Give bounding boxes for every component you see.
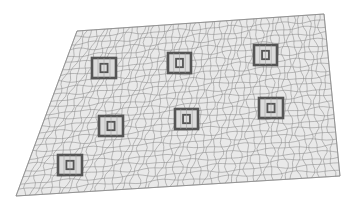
square-hole-feature [58, 155, 82, 175]
square-hole-feature [99, 116, 123, 136]
square-hole-feature [92, 58, 116, 78]
mesh-figure [0, 0, 352, 205]
square-hole-feature [168, 53, 191, 73]
square-hole-feature [175, 109, 198, 129]
square-hole-feature [254, 45, 277, 65]
square-hole-feature [259, 98, 283, 118]
